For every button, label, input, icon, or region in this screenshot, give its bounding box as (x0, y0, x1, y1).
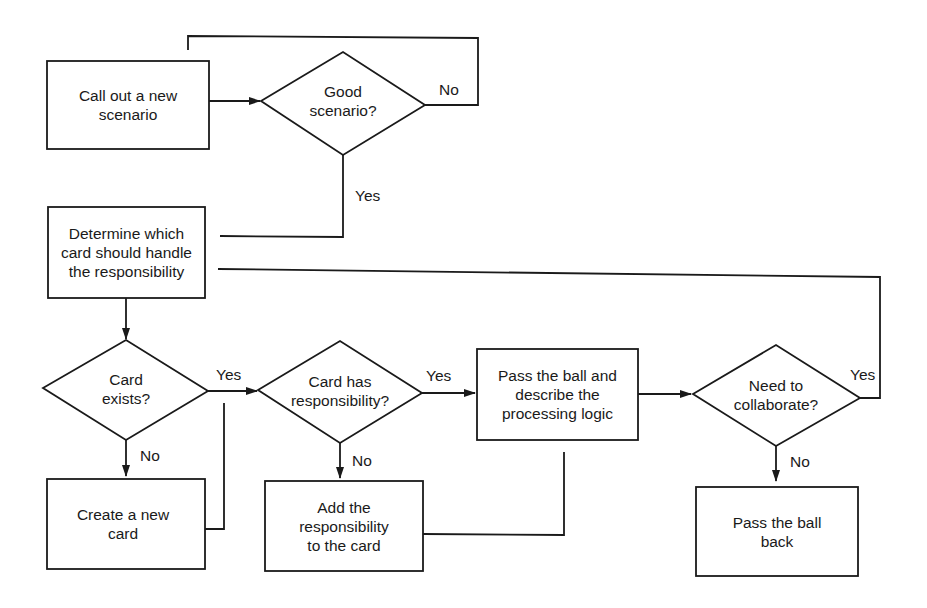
flowchart: Call out a new scenario Good scenario? D… (0, 0, 927, 608)
edge-add-to-pass (423, 452, 564, 535)
edge-create-to-has-resp (205, 403, 224, 529)
label-add-responsibility: Add the responsibility to the card (265, 481, 423, 571)
label-determine-card: Determine which card should handle the r… (48, 207, 205, 298)
edge-label-has-resp-no: No (352, 452, 372, 470)
label-call-out-scenario: Call out a new scenario (47, 61, 209, 149)
edge-label-collab-no: No (790, 453, 810, 471)
edge-label-exists-no: No (140, 447, 160, 465)
label-pass-ball-back: Pass the ball back (696, 487, 858, 576)
edge-label-good-no: No (439, 81, 459, 99)
edge-label-has-resp-yes: Yes (426, 367, 451, 385)
label-create-card: Create a new card (44, 479, 202, 569)
label-good-scenario: Good scenario? (281, 78, 405, 124)
label-card-has-responsibility: Card has responsibility? (270, 368, 410, 414)
edge-label-good-yes: Yes (355, 187, 380, 205)
label-pass-ball-describe: Pass the ball and describe the processin… (477, 349, 638, 440)
edge-label-exists-yes: Yes (216, 366, 241, 384)
edge-good-yes (220, 155, 343, 237)
label-need-collaborate: Need to collaborate? (716, 372, 836, 418)
edge-label-collab-yes: Yes (850, 366, 875, 384)
label-card-exists: Card exists? (70, 366, 182, 412)
